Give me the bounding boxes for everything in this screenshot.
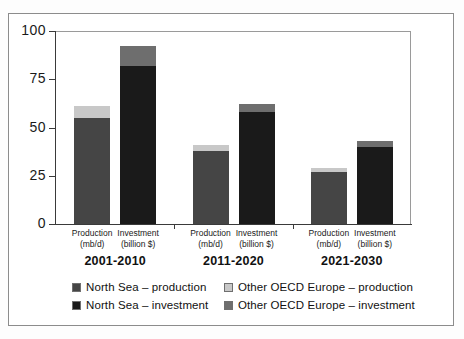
x-axis-line [55,224,412,225]
bar-2011-2020-production [193,145,229,224]
y-tick-mark-25 [49,176,55,177]
bar-2001-2010-investment [120,46,156,224]
bar-2021-2030-production [311,168,347,224]
bar-segment-2021-2030-production-1 [311,168,347,172]
bar-segment-2011-2020-investment-1 [239,104,275,112]
y-tick-mark-0 [49,224,55,225]
y-tick-label-100: 100 [21,22,46,38]
x-group-separator-2 [293,224,294,229]
bar-segment-2001-2010-investment-0 [120,66,156,224]
x-label-line2: (billion $) [343,239,407,250]
legend-row-1: North Sea – production Other OECD Europe… [72,281,402,297]
x-label-line2: (billion $) [225,239,289,250]
bar-segment-2001-2010-production-0 [74,118,110,224]
y-tick-mark-75 [49,79,55,80]
y-tick-label-25: 25 [29,167,46,183]
legend-swatch-other-oecd-production [224,283,233,292]
x-label-line1: Investment [225,228,289,239]
legend-label-other-oecd-production: Other OECD Europe – production [238,281,413,293]
bar-segment-2011-2020-production-0 [193,151,229,224]
chart-figure: 1007550250 Production(mb/d)Investment(bi… [0,0,464,339]
legend-swatch-other-oecd-investment [224,301,233,310]
group-label-2011-2020: 2011-2020 [174,254,292,268]
y-axis-line [55,31,56,225]
y-tick-label-0: 0 [38,215,46,231]
y-tick-label-wrap-75: 75 [0,70,46,86]
bar-segment-2021-2030-investment-1 [357,141,393,147]
group-label-2021-2030: 2021-2030 [293,254,411,268]
bar-segment-2021-2030-production-0 [311,172,347,224]
group-label-2001-2010: 2001-2010 [56,254,174,268]
bar-2021-2030-investment [357,141,393,224]
y-tick-label-wrap-25: 25 [0,167,46,183]
legend-label-north-sea-production: North Sea – production [86,281,206,293]
legend-swatch-north-sea-investment [72,301,81,310]
y-tick-label-75: 75 [29,70,46,86]
legend-item-other-oecd-investment: Other OECD Europe – investment [224,299,415,311]
bar-2011-2020-investment [239,104,275,224]
bar-segment-2021-2030-investment-0 [357,147,393,224]
bar-segment-2011-2020-production-1 [193,145,229,151]
legend-item-other-oecd-production: Other OECD Europe – production [224,281,413,293]
bar-2001-2010-production [74,106,110,224]
legend-item-north-sea-production: North Sea – production [72,281,206,293]
y-tick-mark-50 [49,128,55,129]
x-label-2011-2020-investment: Investment(billion $) [225,228,289,250]
bar-segment-2001-2010-investment-1 [120,46,156,65]
chart-legend: North Sea – production Other OECD Europe… [72,281,402,317]
bar-segment-2011-2020-investment-0 [239,112,275,224]
x-label-2021-2030-investment: Investment(billion $) [343,228,407,250]
legend-row-2: North Sea – investment Other OECD Europe… [72,299,402,315]
y-tick-label-wrap-50: 50 [0,119,46,135]
x-label-2001-2010-investment: Investment(billion $) [106,228,170,250]
y-tick-label-wrap-100: 100 [0,22,46,38]
bar-segment-2001-2010-production-1 [74,106,110,118]
y-tick-label-wrap-0: 0 [0,215,46,231]
x-label-line2: (billion $) [106,239,170,250]
legend-swatch-north-sea-production [72,283,81,292]
legend-label-north-sea-investment: North Sea – investment [86,299,208,311]
legend-label-other-oecd-investment: Other OECD Europe – investment [238,299,415,311]
y-tick-label-50: 50 [29,119,46,135]
x-label-line1: Investment [106,228,170,239]
x-label-line1: Investment [343,228,407,239]
x-group-separator-1 [174,224,175,229]
legend-item-north-sea-investment: North Sea – investment [72,299,208,311]
y-tick-mark-100 [49,31,55,32]
